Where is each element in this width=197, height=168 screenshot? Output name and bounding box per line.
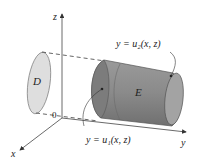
x-axis <box>20 118 62 150</box>
region-d-label: D <box>32 75 41 87</box>
z-axis-label: z <box>52 11 57 22</box>
x-axis-label: x <box>10 148 16 159</box>
projection-line-bottom <box>36 113 98 121</box>
lower-surface-label: y = u₁(x, z) <box>85 134 131 146</box>
projection-line-top <box>42 52 105 61</box>
y-axis-label: y <box>180 137 186 148</box>
diagram-canvas: z y x 0 D E y = u₂(x, z) y = u₁(x, z) <box>0 0 197 168</box>
upper-surface-label: y = u₂(x, z) <box>115 38 161 50</box>
origin-label: 0 <box>52 110 57 120</box>
solid-e-label: E <box>134 86 142 98</box>
